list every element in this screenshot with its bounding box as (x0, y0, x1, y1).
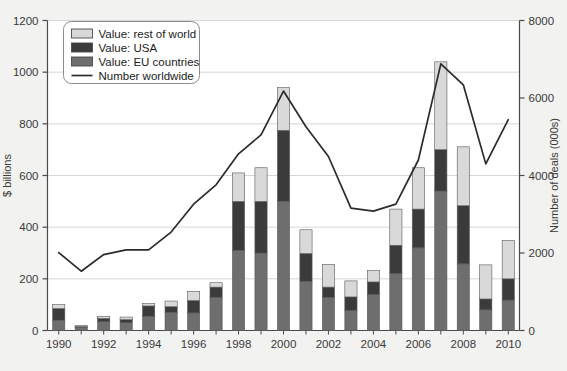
bar-segment (98, 322, 110, 331)
bar-group (75, 325, 87, 330)
bar-segment (367, 294, 379, 330)
bar-segment (345, 281, 357, 297)
bar-segment (367, 271, 379, 282)
chart-legend: Value: rest of worldValue: USAValue: EU … (64, 22, 200, 84)
bar-group (300, 230, 312, 331)
bar-segment (345, 310, 357, 330)
x-axis-tick-label: 1998 (226, 338, 252, 350)
x-axis-tick-label: 2006 (406, 338, 432, 350)
bar-segment (300, 230, 312, 254)
bar-segment (232, 173, 244, 201)
bar-segment (322, 264, 334, 287)
bar-segment (322, 287, 334, 297)
bar-segment (188, 313, 200, 331)
bar-group (277, 88, 289, 331)
x-axis-tick-label: 2008 (451, 338, 477, 350)
bar-segment (277, 130, 289, 201)
bar-group (98, 316, 110, 330)
x-axis-tick-label: 1994 (136, 338, 162, 350)
y2-axis-tick-label: 0 (529, 325, 535, 337)
legend-item-label: Number worldwide (99, 70, 194, 82)
bar-segment (300, 254, 312, 282)
legend-swatch (72, 43, 93, 52)
bar-group (255, 168, 267, 331)
bar-segment (412, 209, 424, 248)
y-axis-tick-label: 800 (19, 118, 38, 130)
bar-segment (232, 201, 244, 250)
legend-item: Value: USA (72, 42, 158, 54)
bar-segment (412, 168, 424, 209)
bar-segment (390, 209, 402, 245)
bar-segment (390, 245, 402, 273)
bar-segment (457, 264, 469, 331)
bar-segment (480, 299, 492, 310)
x-axis-tick-label: 1992 (91, 338, 117, 350)
bar-group (120, 317, 132, 330)
legend-item-label: Value: EU countries (99, 56, 200, 68)
bar-segment (412, 248, 424, 331)
bar-segment (435, 62, 447, 150)
y2-axis-tick-label: 8000 (529, 15, 555, 27)
y2-axis-tick-label: 6000 (529, 92, 555, 104)
bar-segment (367, 282, 379, 294)
bar-group (143, 304, 155, 331)
bar-segment (277, 88, 289, 131)
bar-segment (210, 283, 222, 287)
bar-segment (75, 327, 87, 330)
bar-group (322, 264, 334, 330)
x-axis-tick-label: 2002 (316, 338, 342, 350)
bar-group (188, 291, 200, 330)
legend-swatch (72, 29, 93, 38)
bar-group (232, 173, 244, 331)
bar-segment (75, 325, 87, 326)
legend-swatch (72, 57, 93, 66)
bar-group (165, 301, 177, 330)
bar-segment (210, 287, 222, 297)
bar-segment (165, 301, 177, 307)
bar-group (435, 62, 447, 331)
chart-container: 020040060080010001200$ billions 02000400… (0, 0, 567, 371)
bar-segment (120, 323, 132, 331)
y-axis-tick-label: 200 (19, 273, 38, 285)
bar-segment (98, 316, 110, 318)
bar-segment (120, 320, 132, 323)
stacked-bar-line-chart: 020040060080010001200$ billions 02000400… (0, 0, 567, 371)
y-axis-tick-label: 1000 (13, 66, 39, 78)
bar-segment (322, 297, 334, 330)
bar-segment (188, 301, 200, 313)
x-axis-tick-label: 2010 (495, 338, 521, 350)
bar-segment (143, 316, 155, 330)
y-axis-title: $ billions (1, 154, 13, 197)
y2-axis-title: Number of deals (000s) (548, 118, 560, 233)
bar-segment (502, 279, 514, 300)
bar-segment (143, 304, 155, 306)
bar-group (390, 209, 402, 330)
bar-segment (165, 307, 177, 313)
legend-item: Value: rest of world (72, 28, 197, 40)
bar-group (53, 305, 65, 331)
bar-group (345, 281, 357, 331)
y-axis-tick-label: 600 (19, 170, 38, 182)
bar-segment (120, 317, 132, 320)
bar-segment (232, 250, 244, 330)
bar-segment (165, 312, 177, 330)
y-axis-tick-label: 400 (19, 221, 38, 233)
y2-axis-tick-label: 2000 (529, 247, 555, 259)
bar-segment (98, 318, 110, 321)
bar-group (502, 241, 514, 331)
bar-segment (480, 310, 492, 331)
x-axis-tick-label: 1990 (46, 338, 72, 350)
bar-segment (143, 306, 155, 316)
x-axis-tick-label: 1996 (181, 338, 207, 350)
y-axis-tick-label: 0 (32, 325, 38, 337)
bar-segment (255, 168, 267, 202)
bar-segment (210, 297, 222, 330)
bar-segment (502, 300, 514, 330)
bar-segment (188, 291, 200, 300)
bar-group (457, 147, 469, 331)
bar-segment (435, 150, 447, 191)
bar-segment (345, 297, 357, 310)
bar-segment (435, 191, 447, 331)
bar-segment (53, 305, 65, 309)
bar-segment (502, 241, 514, 279)
